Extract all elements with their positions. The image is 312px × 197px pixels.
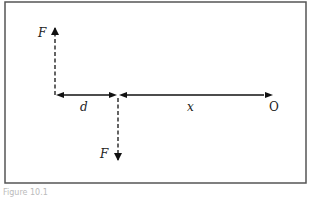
figure-caption: Figure 10.1 <box>3 188 48 197</box>
d-right-arrowhead <box>109 92 117 98</box>
x-left-arrowhead <box>119 92 127 98</box>
origin-label: O <box>269 100 279 114</box>
force-top-label: F <box>37 26 47 40</box>
couple-diagram: F d x O F Figure 10.1 <box>0 0 312 197</box>
distance-d-label: d <box>80 100 88 114</box>
d-left-arrowhead <box>56 92 64 98</box>
distance-x-label: x <box>187 100 194 114</box>
x-right-arrowhead <box>265 92 273 98</box>
figure-frame <box>5 2 306 183</box>
force-bottom-label: F <box>99 147 109 161</box>
